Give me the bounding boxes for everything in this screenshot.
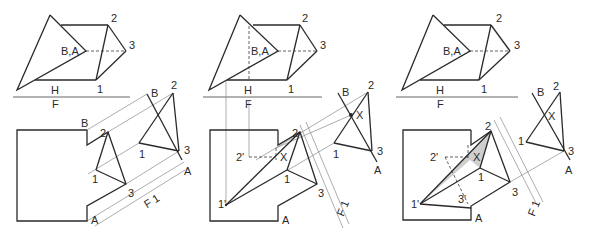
label-1-prime: 1' [218, 198, 226, 210]
label-3: 3 [184, 144, 190, 156]
label-3: 3 [128, 187, 134, 199]
label-b: B [342, 86, 349, 98]
aux-view-2: B 2 X 1 3 A F 1 [333, 79, 383, 218]
label-3: 3 [318, 187, 324, 199]
label-f: F [52, 98, 59, 110]
label-1: 1 [139, 148, 145, 160]
label-f1: F 1 [334, 199, 351, 218]
aux-view-1: B 2 1 3 A F 1 [139, 79, 192, 210]
label-a: A [184, 165, 192, 177]
top-view-1: B,A 2 3 1 H F [13, 12, 135, 110]
label-x: X [548, 110, 556, 122]
label-1: 1 [97, 83, 103, 95]
label-1-prime: 1' [411, 198, 419, 210]
label-ba: B,A [443, 45, 461, 57]
front-view-1: B 2 1 3 A [17, 117, 134, 226]
label-a: A [374, 164, 382, 176]
label-1: 1 [284, 173, 290, 185]
label-2: 2 [171, 79, 177, 91]
label-2: 2 [496, 12, 502, 24]
f1-fold-line [95, 170, 185, 226]
label-x: X [356, 109, 364, 121]
orthographic-projection-figure: B,A 2 3 1 H F B 2 1 3 A [0, 0, 590, 230]
label-a: A [282, 214, 290, 226]
label-3: 3 [514, 39, 520, 51]
label-1: 1 [481, 83, 487, 95]
label-ba: B,A [251, 45, 269, 57]
label-b: B [151, 87, 158, 99]
label-1: 1 [92, 173, 98, 185]
label-2-prime: 2' [430, 151, 438, 163]
label-3: 3 [377, 145, 383, 157]
label-3: 3 [320, 39, 326, 51]
aux-view-3: B 2 X 1 3 A F 1 [518, 80, 574, 218]
label-2: 2 [368, 79, 374, 91]
panel-step-2: B,A 2 3 1 H F 2 2' X 1 1' [203, 12, 383, 228]
label-a: A [565, 164, 573, 176]
label-b: B [537, 86, 544, 98]
label-3-prime: 3' [458, 193, 466, 205]
panel-step-3: B,A 2 3 1 H F 2 2' X 1 1' [396, 12, 574, 224]
label-f1: F 1 [142, 192, 162, 211]
label-2: 2 [111, 12, 117, 24]
projection-lines-1 [87, 93, 185, 226]
front-view-3: 2 2' X 1 1' 3' 3 A [403, 120, 518, 224]
label-h: H [436, 84, 444, 96]
label-1: 1 [288, 83, 294, 95]
panel-step-1: B,A 2 3 1 H F B 2 1 3 A [13, 12, 192, 226]
label-1: 1 [333, 148, 339, 160]
label-f1: F 1 [525, 199, 542, 218]
label-2-prime: 2' [236, 151, 244, 163]
label-h: H [51, 84, 59, 96]
label-x: X [473, 151, 481, 163]
label-f: F [437, 98, 444, 110]
label-f: F [245, 98, 252, 110]
label-h: H [244, 84, 252, 96]
label-2: 2 [100, 127, 106, 139]
label-x: X [280, 151, 288, 163]
label-2: 2 [292, 127, 298, 139]
label-2: 2 [553, 80, 559, 92]
label-3: 3 [129, 39, 135, 51]
label-ba: B,A [61, 45, 79, 57]
top-view-3: B,A 2 3 1 H F [396, 12, 520, 110]
label-a: A [475, 212, 483, 224]
label-1: 1 [478, 171, 484, 183]
top-view-2: B,A 2 3 1 H F [203, 12, 326, 205]
label-3: 3 [512, 186, 518, 198]
projection-lines-2 [256, 92, 368, 228]
label-2: 2 [302, 12, 308, 24]
label-2: 2 [485, 120, 491, 132]
label-a: A [91, 214, 99, 226]
label-b: B [81, 117, 88, 129]
label-3: 3 [568, 145, 574, 157]
label-1: 1 [518, 135, 524, 147]
